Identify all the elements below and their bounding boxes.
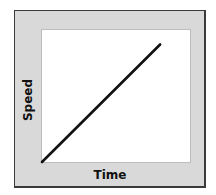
- x-axis-label: Time: [94, 168, 127, 182]
- y-axis-label: Speed: [21, 79, 35, 121]
